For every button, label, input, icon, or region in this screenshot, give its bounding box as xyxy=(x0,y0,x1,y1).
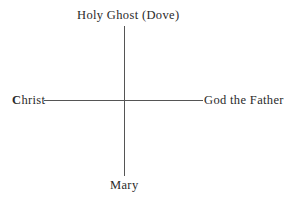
node-left-label: Christ xyxy=(12,93,45,107)
node-right-label: God the Father xyxy=(204,93,284,107)
node-top-label: Holy Ghost (Dove) xyxy=(77,8,179,22)
node-bottom-label: Mary xyxy=(110,178,138,192)
horizontal-axis-line xyxy=(44,100,203,101)
vertical-axis-line xyxy=(124,26,125,176)
